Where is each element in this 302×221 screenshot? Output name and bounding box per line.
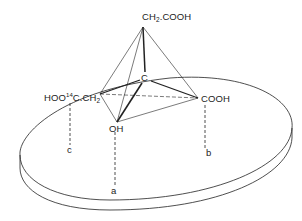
binding-site-a-label: a: [111, 186, 116, 196]
central-carbon-label: C: [141, 73, 148, 83]
right-group-label: COOH: [201, 94, 230, 104]
binding-site-c-label: c: [67, 145, 72, 155]
binding-site-b-label: b: [206, 148, 211, 158]
left-group-label: HOO14C.CH2: [44, 92, 100, 105]
apex-group-label: CH2.COOH: [142, 12, 191, 24]
aconitase-binding-diagram: [0, 0, 302, 221]
bottom-group-label: OH: [109, 124, 123, 134]
